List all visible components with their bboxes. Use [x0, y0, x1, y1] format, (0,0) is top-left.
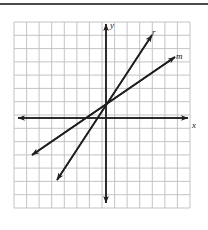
- y-axis-label: y: [110, 21, 114, 30]
- line-r-arrow-upper: [57, 35, 152, 180]
- coordinate-plane-figure: y x r m: [0, 0, 208, 230]
- grid-lines: [14, 22, 190, 208]
- plot-svg: [0, 0, 208, 230]
- line-m-label: m: [176, 52, 183, 61]
- line-m-arrow-upper: [32, 57, 175, 155]
- x-axis-label: x: [192, 121, 196, 130]
- plot-area: [0, 0, 208, 230]
- line-r-label: r: [152, 28, 156, 37]
